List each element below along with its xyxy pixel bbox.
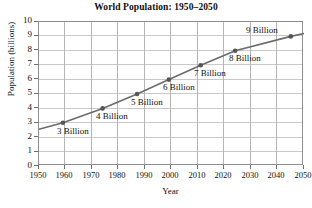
data-point-9-billion — [289, 34, 294, 39]
data-point-5-billion — [135, 92, 140, 97]
y-tick-label: 10 — [2, 16, 32, 25]
data-point-7-billion — [198, 63, 203, 68]
annotation-4-billion: 4 Billion — [96, 111, 128, 121]
y-tick-label: 8 — [2, 45, 32, 54]
y-tick-label: 9 — [2, 30, 32, 39]
data-point-4-billion — [100, 106, 105, 111]
annotation-9-billion: 9 Billion — [246, 25, 278, 35]
x-axis-label: Year — [38, 186, 303, 196]
y-tick-label: 0 — [2, 161, 32, 170]
plot-area: 3 Billion 4 Billion 5 Billion 6 Billion … — [38, 21, 303, 165]
data-series-line — [39, 22, 304, 166]
annotation-5-billion: 5 Billion — [131, 97, 163, 107]
x-tick-label: 2050 — [286, 171, 312, 180]
data-point-3-billion — [61, 121, 66, 126]
chart-figure: World Population: 1950–2050 Population (… — [0, 0, 312, 208]
chart-title: World Population: 1950–2050 — [0, 2, 312, 12]
annotation-8-billion: 8 Billion — [229, 53, 261, 63]
y-tick-label: 1 — [2, 146, 32, 155]
annotation-3-billion: 3 Billion — [57, 126, 89, 136]
annotation-6-billion: 6 Billion — [163, 82, 195, 92]
annotation-7-billion: 7 Billion — [194, 68, 226, 78]
y-tick-label: 6 — [2, 74, 32, 83]
y-tick-label: 4 — [2, 103, 32, 112]
y-tick-label: 5 — [2, 88, 32, 97]
y-tick-label: 2 — [2, 132, 32, 141]
y-tick-label: 7 — [2, 59, 32, 68]
y-tick-label: 3 — [2, 117, 32, 126]
